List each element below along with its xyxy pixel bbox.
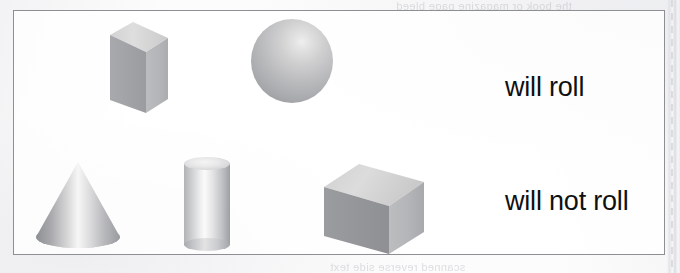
rectangular-prism-shape [96,16,176,116]
cube-shape [319,154,429,259]
row-label-will-roll: will roll [505,72,584,103]
sphere-shape [251,19,333,103]
cube-svg [319,154,429,259]
cylinder-bottom-cap [184,238,230,251]
cylinder-top-cap [184,157,230,170]
scanned-page: the book or magazine page bleed scanned … [0,0,680,273]
row-label-will-not-roll: will not roll [505,186,628,217]
cone-svg [26,159,130,251]
diagram-border-box: will roll [13,10,665,255]
rectangular-prism-svg [96,16,176,116]
page-edge-scan-strip [667,0,680,273]
cone-shape [26,159,130,251]
cylinder-body [184,163,230,245]
cylinder-shape [184,157,230,251]
ghost-bleedthrough-text-bottom: scanned reverse side text [330,261,465,273]
